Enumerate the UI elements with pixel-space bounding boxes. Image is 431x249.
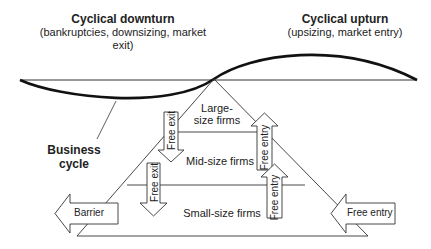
- cyclical-upturn-heading: Cyclical upturn (upsizing, market entry): [285, 13, 405, 39]
- free-exit-mid-text: Free exit: [149, 163, 160, 203]
- business-cycle-line1: Business: [47, 143, 100, 157]
- business-cycle-label: Business cycle: [44, 143, 104, 171]
- business-cycle-wave: [20, 55, 417, 98]
- mid-size-firms-label: Mid-size firms: [180, 155, 260, 167]
- downturn-subtitle: (bankruptcies, downsizing, market exit): [28, 26, 218, 52]
- upturn-subtitle: (upsizing, market entry): [285, 26, 405, 39]
- business-cycle-line2: cycle: [59, 157, 89, 171]
- barrier-text: Barrier: [74, 207, 104, 218]
- cycle-pointer-line: [97, 101, 116, 139]
- large-line1: Large-: [201, 102, 233, 114]
- cyclical-downturn-heading: Cyclical downturn (bankruptcies, downsiz…: [28, 13, 218, 52]
- downturn-title: Cyclical downturn: [28, 13, 218, 26]
- upturn-title: Cyclical upturn: [285, 13, 405, 26]
- large-line2: size firms: [194, 114, 240, 126]
- large-size-firms-label: Large- size firms: [182, 102, 252, 126]
- small-size-firms-label: Small-size firms: [177, 207, 267, 219]
- free-exit-large-text: Free exit: [166, 111, 177, 151]
- free-entry-mid-text: Free entry: [259, 123, 270, 173]
- free-entry-right-text: Free entry: [347, 207, 393, 218]
- free-entry-small-text: Free entry: [269, 173, 280, 223]
